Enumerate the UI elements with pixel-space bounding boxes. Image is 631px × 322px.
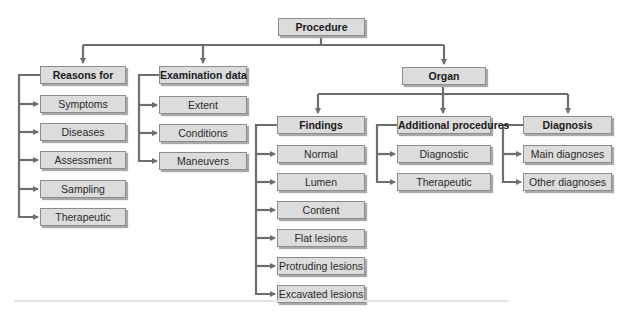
node-protruding-lesions: Protruding lesions [277, 257, 365, 275]
node-diagnostic: Diagnostic [397, 145, 491, 163]
node-therapeutic-reason: Therapeutic [40, 208, 126, 226]
node-conditions: Conditions [159, 124, 247, 142]
bottom-divider [14, 300, 508, 302]
node-lumen: Lumen [277, 173, 365, 191]
node-assessment: Assessment [40, 151, 126, 169]
node-diseases: Diseases [40, 123, 126, 141]
node-other-diagnoses: Other diagnoses [523, 173, 612, 191]
node-sampling: Sampling [40, 180, 126, 198]
node-normal: Normal [277, 145, 365, 163]
node-reasons-for: Reasons for [40, 66, 126, 84]
node-therapeutic-procedure: Therapeutic [397, 173, 491, 191]
node-organ: Organ [402, 67, 486, 85]
node-main-diagnoses: Main diagnoses [523, 145, 612, 163]
node-flat-lesions: Flat lesions [277, 229, 365, 247]
node-examination-data: Examination data [159, 66, 247, 84]
node-maneuvers: Maneuvers [159, 152, 247, 170]
node-additional-procedures: Additional procedures [397, 116, 491, 134]
node-diagnosis: Diagnosis [523, 116, 612, 134]
node-procedure: Procedure [278, 18, 365, 36]
node-findings: Findings [277, 116, 365, 134]
node-content: Content [277, 201, 365, 219]
node-symptoms: Symptoms [40, 95, 126, 113]
node-extent: Extent [159, 96, 247, 114]
